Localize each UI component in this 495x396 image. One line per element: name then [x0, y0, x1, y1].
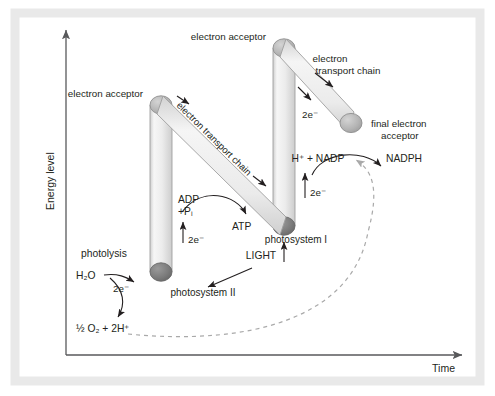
nadp-label: H⁺ + NADP	[292, 153, 345, 164]
ps2-electron-acceptor-label: electron acceptor	[68, 88, 144, 99]
final-acceptor-label-line1: final electron	[371, 118, 427, 129]
adp-label-line1: ADP	[178, 194, 199, 205]
final-electron-acceptor-circle	[340, 113, 362, 132]
ps1-cylinder-body	[273, 48, 295, 226]
etc2-label-line1: electron	[313, 53, 348, 64]
y-axis-label: Energy level	[44, 152, 56, 210]
etc2-label-line2: transport chain	[316, 65, 381, 76]
electrons-label-etc2: 2e⁻	[302, 109, 318, 120]
photosystem-2-label: photosystem II	[170, 287, 235, 298]
water-label: H₂O	[76, 270, 95, 281]
light-label: LIGHT	[246, 250, 277, 261]
ps1-electron-acceptor-label: electron acceptor	[191, 31, 267, 42]
photosystem-1-label: photosystem I	[265, 234, 327, 245]
ps2-cylinder-body	[150, 105, 172, 272]
final-acceptor-label-line2: acceptor	[381, 130, 419, 141]
diagram-canvas: Energy level Time electron transport cha…	[0, 0, 495, 396]
photosystem-2-circle	[150, 263, 172, 281]
electrons-label-photolysis: 2e⁻	[113, 283, 129, 294]
oxygen-products-label: ½ O₂ + 2H⁺	[76, 323, 129, 334]
nadph-label: NADPH	[386, 153, 422, 164]
photolysis-label: photolysis	[81, 248, 127, 259]
atp-label: ATP	[232, 221, 251, 232]
electrons-label-ps1: 2e⁻	[310, 187, 326, 198]
photosynthesis-z-scheme-diagram: Energy level Time electron transport cha…	[0, 0, 495, 396]
x-axis-label: Time	[432, 362, 455, 374]
adp-label-line2: +Pᵢ	[178, 206, 193, 217]
electrons-label-ps2: 2e⁻	[188, 234, 204, 245]
